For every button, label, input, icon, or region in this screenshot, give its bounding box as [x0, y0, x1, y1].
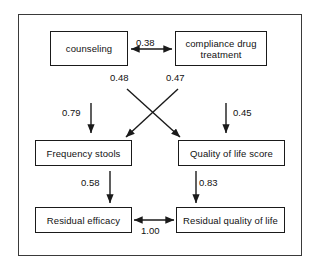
edge-label-residual-efficacy-residual-quality: 1.00 — [141, 226, 160, 236]
node-quality-of-life-score[interactable]: Quality of life score — [178, 140, 285, 166]
node-counseling[interactable]: counseling — [50, 31, 128, 66]
node-residual-efficacy[interactable]: Residual efficacy — [35, 207, 132, 233]
node-residual-quality-of-life[interactable]: Residual quality of life — [176, 207, 285, 233]
node-compliance-drug-treatment-label: compliance drug treatment — [179, 38, 263, 60]
node-counseling-label: counseling — [66, 43, 112, 54]
node-quality-of-life-score-label: Quality of life score — [190, 148, 273, 159]
node-residual-efficacy-label: Residual efficacy — [47, 215, 120, 226]
edge-label-counseling-quality: 0.48 — [110, 73, 129, 83]
node-frequency-stools-label: Frequency stools — [47, 148, 121, 159]
edge-label-quality-residual-quality: 0.83 — [199, 178, 218, 188]
edge-label-error-frequency: 0.79 — [62, 108, 81, 118]
node-residual-quality-of-life-label: Residual quality of life — [183, 215, 278, 226]
edge-label-frequency-residual-efficacy: 0.58 — [81, 178, 100, 188]
node-frequency-stools[interactable]: Frequency stools — [35, 140, 132, 166]
node-compliance-drug-treatment[interactable]: compliance drug treatment — [175, 31, 267, 66]
edge-label-compliance-frequency: 0.47 — [166, 73, 185, 83]
path-diagram-page: counseling compliance drug treatment Fre… — [0, 0, 319, 273]
edge-label-counseling-compliance: 0.38 — [136, 38, 155, 48]
edge-label-error-quality: 0.45 — [233, 108, 252, 118]
